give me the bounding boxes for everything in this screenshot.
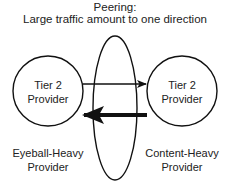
left-node-label-line2: Provider <box>13 93 83 106</box>
left-node-label-line1: Tier 2 <box>13 79 83 92</box>
right-node-label-line2: Provider <box>147 93 217 106</box>
right-caption-line2: Provider <box>132 161 230 174</box>
peering-boundary-ellipse <box>93 36 137 180</box>
left-caption-line1: Eyeball-Heavy <box>0 147 98 160</box>
right-node-label-line1: Tier 2 <box>147 79 217 92</box>
left-caption-line2: Provider <box>0 161 98 174</box>
right-caption-line1: Content-Heavy <box>132 147 230 160</box>
